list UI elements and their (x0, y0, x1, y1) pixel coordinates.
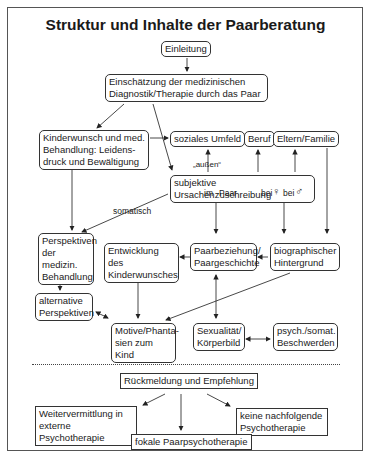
node-rueckmeldung: Rückmeldung und Empfehlung (120, 373, 258, 389)
label-im: im (204, 188, 213, 198)
node-soziales-umfeld: soziales Umfeld (170, 131, 245, 147)
label-bei-male: bei (283, 188, 294, 198)
edge-bio-motive (166, 273, 290, 320)
edge-rueck-keine (207, 394, 230, 406)
female-icon: ♀ (272, 185, 280, 197)
node-kinderwunsch: Kinderwunsch und med. Behandlung: Leiden… (39, 130, 149, 170)
label-paar: Paar (219, 188, 237, 198)
node-entwicklung: Entwicklung des Kinderwunsches (104, 243, 179, 283)
node-perspektiven: Perspektiven der medizin. Behandlung (38, 233, 94, 285)
node-einschaetzung: Einschätzung der medizinischen Diagnosti… (105, 74, 268, 102)
node-keine-psychotherapie: keine nachfolgende Psychotherapie (236, 408, 328, 436)
node-motive: Motive/Phanta- sien zum Kind (111, 323, 176, 363)
male-icon: ♂ (295, 185, 303, 197)
node-eltern-familie: Eltern/Familie (273, 131, 339, 147)
label-somatisch: somatisch (113, 206, 151, 216)
edge-alternative-motive (96, 312, 108, 318)
edge-rueck-weiter (143, 394, 165, 405)
node-fokale: fokale Paarpsychotherapie (131, 434, 252, 450)
section-divider (32, 364, 340, 365)
node-weitervermittlung: Weitervermittlung in externe Psychothera… (35, 406, 137, 446)
node-paarbeziehung: Paarbeziehung/ Paargeschichte (190, 243, 257, 271)
edge-einschaetzung-kinderwunsch (97, 104, 124, 128)
node-sexualitaet: Sexualität/ Körperbild (193, 323, 245, 351)
node-alternative: alternative Perspektiven (35, 293, 93, 321)
node-beschwerden: psych./somat. Beschwerden (273, 323, 338, 351)
label-aussen: „außen“ (193, 160, 221, 169)
node-biographisch: biographischer Hintergrund (270, 243, 340, 271)
node-einleitung: Einleitung (161, 41, 211, 57)
label-bei-female: bei (261, 188, 272, 198)
node-beruf: Beruf (244, 131, 275, 147)
edges-layer (0, 0, 371, 462)
